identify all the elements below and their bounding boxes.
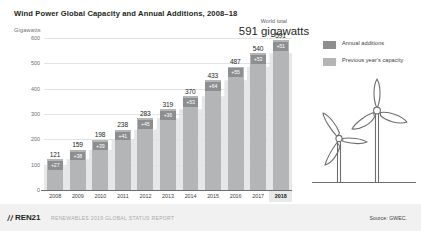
chart-figure: Wind Power Global Capacity and Annual Ad…: [0, 0, 421, 231]
wind-turbine-illustration: [312, 78, 416, 190]
annual-addition-label: +64: [205, 82, 220, 91]
footer-bar: REN21 RENEWABLES 2019 GLOBAL STATUS REPO…: [0, 204, 421, 231]
annual-addition-label: +39: [93, 142, 108, 151]
world-total-label: World total: [228, 18, 320, 24]
bar-group: +55487: [224, 38, 247, 190]
x-axis-tick-2008: 2008: [44, 191, 67, 202]
annual-addition-label: +55: [228, 68, 243, 77]
y-axis-tick-label: 500: [20, 60, 40, 66]
bar: [205, 80, 221, 190]
bar-group: +45283: [134, 38, 157, 190]
x-axis-labels: 2008200920102011201220132014201520162017…: [44, 191, 292, 204]
page-title: Wind Power Global Capacity and Annual Ad…: [14, 9, 237, 18]
bar-group: +53370: [179, 38, 202, 190]
bar-series: +27121+38159+39198+41238+45283+36319+533…: [44, 38, 292, 190]
bar: [250, 53, 266, 190]
total-capacity-label: 591: [267, 32, 293, 39]
x-axis-tick-2016: 2016: [224, 191, 247, 202]
ren21-logo-text: REN21: [15, 213, 40, 222]
legend-swatch-annual-additions: [323, 41, 336, 49]
total-capacity-label: 121: [42, 151, 68, 158]
x-axis-tick-2012: 2012: [134, 191, 157, 202]
bar: [273, 40, 289, 190]
bar-group: +51591: [269, 38, 292, 190]
legend-swatch-previous-capacity: [323, 58, 336, 66]
legend: Annual additions Previous year's capacit…: [323, 40, 418, 74]
x-axis-tick-2011: 2011: [112, 191, 135, 202]
y-axis-unit-label: Gigawatts: [14, 27, 41, 33]
bar-group: +36319: [157, 38, 180, 190]
annual-addition-label: +53: [251, 55, 266, 64]
annual-addition-label: +45: [138, 120, 153, 129]
x-axis-tick-2009: 2009: [67, 191, 90, 202]
bar-group: +27121: [44, 38, 67, 190]
bar: [183, 96, 199, 190]
plot-area: 0100200300400500600 +27121+38159+39198+4…: [44, 38, 292, 190]
total-capacity-label: 433: [200, 72, 226, 79]
annual-addition-label: +36: [160, 111, 175, 120]
total-capacity-label: 319: [155, 101, 181, 108]
bar-group: +38159: [67, 38, 90, 190]
x-axis-tick-2013: 2013: [157, 191, 180, 202]
y-axis-tick-label: 100: [20, 162, 40, 168]
total-capacity-label: 159: [65, 141, 91, 148]
bar-group: +41238: [112, 38, 135, 190]
y-axis-tick-label: 300: [20, 111, 40, 117]
total-capacity-label: 370: [177, 88, 203, 95]
bar-group: +39198: [89, 38, 112, 190]
source-credit: Source: GWEC.: [369, 215, 407, 221]
annual-addition-label: +27: [48, 161, 63, 170]
annual-addition-label: +41: [115, 132, 130, 141]
legend-item-annual-additions: Annual additions: [323, 40, 418, 52]
y-axis-tick-label: 0: [20, 187, 40, 193]
x-axis-tick-2017: 2017: [247, 191, 270, 202]
y-axis-tick-label: 400: [20, 86, 40, 92]
bar-group: +53540: [247, 38, 270, 190]
x-axis-tick-2015: 2015: [202, 191, 225, 202]
annual-addition-label: +53: [183, 98, 198, 107]
bar: [228, 67, 244, 190]
report-name: RENEWABLES 2019 GLOBAL STATUS REPORT: [51, 215, 174, 221]
total-capacity-label: 283: [132, 110, 158, 117]
x-axis-tick-2010: 2010: [89, 191, 112, 202]
x-axis-tick-2014: 2014: [179, 191, 202, 202]
total-capacity-label: 540: [245, 45, 271, 52]
bar: [160, 109, 176, 190]
annual-addition-label: +51: [273, 42, 288, 51]
total-capacity-label: 487: [222, 58, 248, 65]
y-axis-tick-label: 600: [20, 35, 40, 41]
y-axis-tick-label: 200: [20, 136, 40, 142]
legend-label-previous-capacity: Previous year's capacity: [342, 57, 418, 64]
bar: [137, 118, 153, 190]
bar-group: +64433: [202, 38, 225, 190]
legend-item-previous-capacity: Previous year's capacity: [323, 57, 418, 69]
total-capacity-label: 238: [110, 121, 136, 128]
ren21-logo-icon: [7, 214, 14, 222]
legend-label-annual-additions: Annual additions: [342, 40, 418, 47]
annual-addition-label: +38: [70, 152, 85, 161]
total-capacity-label: 198: [87, 131, 113, 138]
x-axis-tick-2018: 2018: [269, 191, 292, 202]
